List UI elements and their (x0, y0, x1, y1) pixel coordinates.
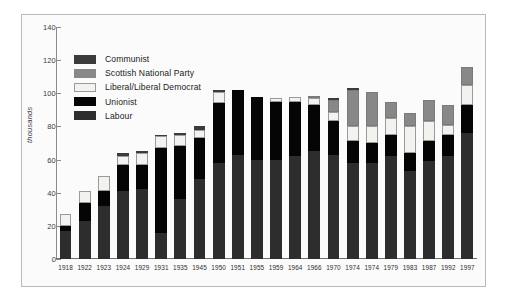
bar-segment[interactable] (442, 135, 454, 157)
bar-segment[interactable] (328, 100, 340, 112)
bar-segment[interactable] (79, 221, 91, 259)
bar-segment[interactable] (347, 126, 359, 141)
bar-segment[interactable] (155, 233, 167, 260)
bar-group[interactable] (270, 98, 282, 259)
bar-segment[interactable] (385, 135, 397, 157)
bar-segment[interactable] (117, 156, 129, 164)
bar-group[interactable] (60, 214, 72, 259)
bar-segment[interactable] (136, 151, 148, 153)
bar-segment[interactable] (155, 148, 167, 233)
bar-segment[interactable] (213, 92, 225, 104)
bar-segment[interactable] (232, 155, 244, 259)
bar-group[interactable] (213, 90, 225, 259)
bar-segment[interactable] (404, 126, 416, 153)
bar-group[interactable] (98, 176, 110, 259)
legend-item[interactable]: Unionist (74, 95, 201, 109)
bar-group[interactable] (136, 151, 148, 259)
bar-segment[interactable] (136, 165, 148, 190)
bar-group[interactable] (366, 92, 378, 259)
bar-segment[interactable] (385, 118, 397, 135)
bar-segment[interactable] (174, 135, 186, 147)
bar-segment[interactable] (328, 98, 340, 100)
bar-segment[interactable] (328, 121, 340, 154)
bar-segment[interactable] (347, 90, 359, 126)
bar-segment[interactable] (98, 191, 110, 206)
bar-segment[interactable] (79, 203, 91, 221)
bar-segment[interactable] (308, 105, 320, 151)
bar-segment[interactable] (194, 179, 206, 259)
bar-segment[interactable] (213, 90, 225, 92)
bar-segment[interactable] (213, 163, 225, 259)
bar-segment[interactable] (385, 156, 397, 259)
legend-item[interactable]: Labour (74, 109, 201, 123)
bar-segment[interactable] (442, 125, 454, 135)
bar-segment[interactable] (117, 153, 129, 156)
bar-group[interactable] (289, 97, 301, 259)
bar-segment[interactable] (308, 151, 320, 259)
bar-segment[interactable] (423, 161, 435, 259)
bar-group[interactable] (194, 126, 206, 259)
bar-segment[interactable] (366, 143, 378, 163)
bar-segment[interactable] (347, 141, 359, 163)
bar-segment[interactable] (366, 126, 378, 143)
bar-segment[interactable] (270, 102, 282, 160)
bar-segment[interactable] (423, 100, 435, 122)
bar-segment[interactable] (117, 191, 129, 259)
bar-segment[interactable] (155, 136, 167, 148)
bar-segment[interactable] (347, 163, 359, 259)
bar-group[interactable] (385, 102, 397, 259)
bar-segment[interactable] (423, 121, 435, 141)
bar-segment[interactable] (251, 160, 263, 259)
bar-group[interactable] (155, 135, 167, 259)
bar-group[interactable] (328, 98, 340, 259)
bar-segment[interactable] (117, 165, 129, 192)
bar-segment[interactable] (289, 102, 301, 157)
bar-group[interactable] (442, 105, 454, 259)
bar-segment[interactable] (194, 126, 206, 129)
bar-segment[interactable] (136, 153, 148, 165)
bar-segment[interactable] (60, 231, 72, 259)
bar-group[interactable] (404, 113, 416, 259)
bar-segment[interactable] (461, 133, 473, 259)
bar-segment[interactable] (174, 133, 186, 135)
bar-segment[interactable] (289, 97, 301, 102)
bar-segment[interactable] (461, 105, 473, 133)
bar-group[interactable] (461, 67, 473, 259)
bar-segment[interactable] (174, 199, 186, 259)
bar-segment[interactable] (308, 96, 320, 98)
legend-item[interactable]: Liberal/Liberal Democrat (74, 80, 201, 94)
bar-segment[interactable] (213, 103, 225, 163)
bar-group[interactable] (79, 191, 91, 259)
bar-segment[interactable] (404, 171, 416, 259)
bar-segment[interactable] (442, 105, 454, 125)
bar-segment[interactable] (174, 146, 186, 199)
bar-group[interactable] (308, 97, 320, 259)
bar-segment[interactable] (308, 98, 320, 105)
bar-segment[interactable] (442, 156, 454, 259)
bar-segment[interactable] (98, 176, 110, 191)
bar-segment[interactable] (270, 98, 282, 101)
bar-segment[interactable] (328, 155, 340, 259)
bar-segment[interactable] (251, 97, 263, 160)
legend-item[interactable]: Communist (74, 52, 201, 66)
bar-segment[interactable] (194, 130, 206, 138)
bar-group[interactable] (117, 153, 129, 259)
bar-segment[interactable] (155, 135, 167, 137)
bar-segment[interactable] (270, 160, 282, 259)
bar-segment[interactable] (60, 214, 72, 226)
legend-item[interactable]: Scottish National Party (74, 66, 201, 80)
bar-segment[interactable] (461, 67, 473, 85)
bar-segment[interactable] (404, 153, 416, 171)
bar-group[interactable] (423, 100, 435, 259)
bar-segment[interactable] (366, 92, 378, 127)
bar-segment[interactable] (232, 90, 244, 155)
bar-segment[interactable] (328, 112, 340, 122)
bar-segment[interactable] (385, 102, 397, 119)
bar-segment[interactable] (461, 85, 473, 105)
bar-group[interactable] (251, 97, 263, 259)
bar-segment[interactable] (98, 206, 110, 259)
bar-segment[interactable] (404, 113, 416, 126)
bar-segment[interactable] (79, 191, 91, 203)
bar-segment[interactable] (289, 156, 301, 259)
bar-segment[interactable] (347, 88, 359, 90)
